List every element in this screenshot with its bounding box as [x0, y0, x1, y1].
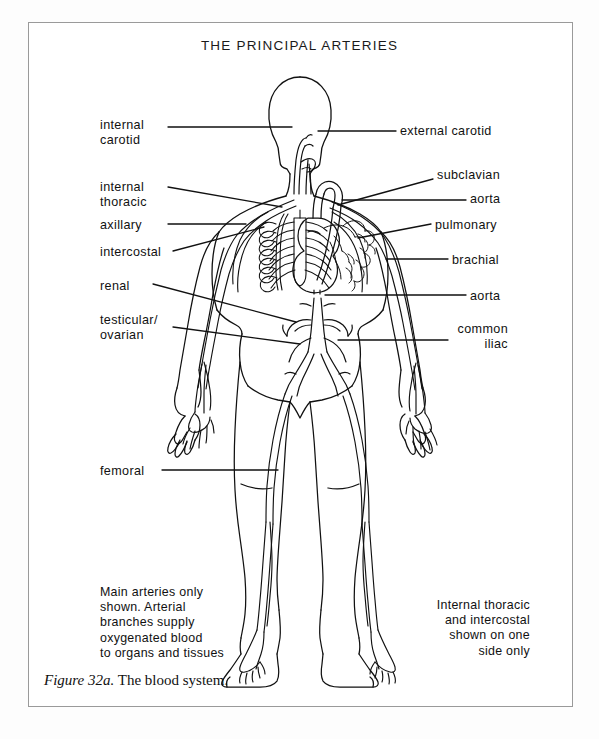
label-renal: renal	[100, 279, 130, 294]
carotid-arteries	[294, 135, 315, 194]
label-axillary: axillary	[100, 218, 142, 233]
page-background: THE PRINCIPAL ARTERIES	[0, 0, 599, 739]
label-subclavian: subclavian	[437, 168, 500, 183]
label-internal-carotid: internal carotid	[100, 118, 144, 147]
figure-caption: Figure 32a. The blood system.	[44, 672, 228, 689]
label-intercostal: intercostal	[100, 245, 161, 260]
label-aorta-abdominal: aorta	[470, 289, 500, 304]
label-pulmonary: pulmonary	[435, 218, 497, 233]
figure-caption-text: The blood system.	[114, 672, 228, 688]
note-one-side-only: Internal thoracic and intercostal shown …	[380, 598, 530, 659]
intercostal-arteries	[259, 222, 277, 292]
leg-arteries	[240, 394, 396, 684]
label-external-carotid: external carotid	[400, 124, 492, 139]
label-aorta-arch: aorta	[470, 192, 500, 207]
label-internal-thoracic: internal thoracic	[100, 180, 147, 209]
note-main-arteries: Main arteries only shown. Arterial branc…	[100, 585, 224, 661]
label-femoral: femoral	[100, 464, 144, 479]
label-testicular-ovarian: testicular/ ovarian	[100, 313, 158, 342]
label-common-iliac: common iliac	[398, 322, 508, 351]
figure-number: Figure 32a.	[44, 672, 114, 688]
label-brachial: brachial	[452, 253, 499, 268]
